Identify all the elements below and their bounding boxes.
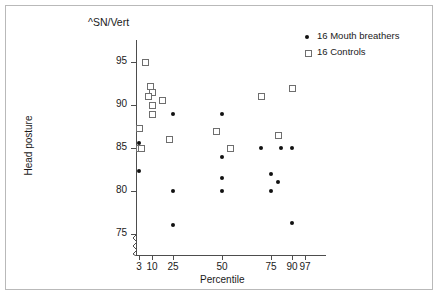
chart-title: ^SN/Vert (88, 16, 129, 28)
data-point-mouth-breather (171, 223, 175, 227)
x-tick (305, 255, 306, 260)
data-point-control (213, 128, 220, 135)
data-point-mouth-breather (290, 221, 294, 225)
data-point-mouth-breather (269, 172, 273, 176)
data-point-control (149, 111, 156, 118)
data-point-mouth-breather (220, 155, 224, 159)
data-point-control (289, 85, 296, 92)
data-point-control (145, 93, 152, 100)
data-point-mouth-breather (220, 176, 224, 180)
data-point-control (227, 145, 234, 152)
x-tick (173, 255, 174, 260)
data-point-mouth-breather (220, 112, 224, 116)
x-tick-label: 50 (209, 261, 235, 272)
data-point-control (149, 102, 156, 109)
y-tick (131, 105, 137, 106)
data-point-mouth-breather (269, 189, 273, 193)
y-tick (131, 62, 137, 63)
filled-circle-icon (305, 35, 309, 39)
data-point-mouth-breather (276, 180, 280, 184)
data-point-mouth-breather (279, 146, 283, 150)
y-tick (131, 234, 137, 235)
data-point-control (258, 93, 265, 100)
data-point-control (166, 136, 173, 143)
x-tick-label: 25 (160, 261, 186, 272)
data-point-control (159, 97, 166, 104)
x-axis-line (136, 255, 326, 256)
data-point-control (136, 125, 143, 132)
x-tick (271, 255, 272, 260)
x-tick (222, 255, 223, 260)
y-tick-label: 80 (101, 184, 127, 195)
scatter-plot: ^SN/Vert Head posture Percentile 7580859… (0, 0, 440, 297)
data-point-mouth-breather (290, 146, 294, 150)
data-point-control (275, 132, 282, 139)
data-point-mouth-breather (171, 189, 175, 193)
x-tick-label: 97 (292, 261, 318, 272)
legend-item-label: 16 Mouth breathers (317, 30, 399, 41)
data-point-mouth-breather (171, 112, 175, 116)
x-tick (139, 255, 140, 260)
data-point-mouth-breather (220, 189, 224, 193)
y-tick (131, 191, 137, 192)
data-point-mouth-breather (137, 169, 141, 173)
x-tick (292, 255, 293, 260)
data-point-mouth-breather (259, 146, 263, 150)
x-axis-label: Percentile (200, 274, 244, 285)
y-tick-label: 85 (101, 141, 127, 152)
y-tick-label: 90 (101, 98, 127, 109)
axis-break-icon (129, 234, 141, 256)
x-tick (152, 255, 153, 260)
data-point-control (142, 59, 149, 66)
open-square-icon (305, 50, 312, 57)
y-axis-label: Head posture (23, 101, 34, 191)
y-tick-label: 75 (101, 227, 127, 238)
data-point-control (138, 145, 145, 152)
y-tick-label: 95 (101, 55, 127, 66)
legend-item-label: 16 Controls (317, 46, 366, 57)
